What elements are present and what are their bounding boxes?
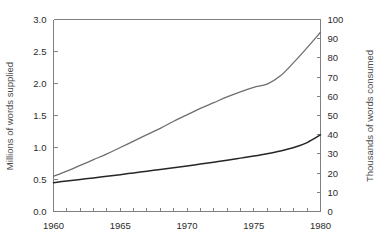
y-right-tick-label: 80 [328,52,339,63]
y-right-tick-label: 20 [328,168,339,179]
y-axis-right-tick-marks [317,20,321,212]
y-left-tick-label: 1.5 [33,110,46,121]
series-line-0 [54,32,321,176]
x-tick-label: 1975 [243,220,264,231]
y-left-tick-label: 1.0 [33,142,46,153]
y-axis-left-title: Millions of words supplied [4,62,15,170]
x-tick-label: 1960 [43,220,64,231]
y-axis-right-title: Thousands of words consumed [364,50,375,182]
y-left-tick-label: 2.5 [33,46,46,57]
y-right-tick-label: 70 [328,72,339,83]
y-axis-right-tick-labels: 0102030405060708090100 [328,14,344,217]
y-right-tick-label: 30 [328,148,339,159]
y-right-tick-label: 50 [328,110,339,121]
y-right-tick-label: 90 [328,33,339,44]
y-axis-left-tick-labels: 0.00.51.01.52.02.53.0 [33,14,46,217]
x-tick-label: 1980 [310,220,331,231]
y-left-tick-label: 2.0 [33,78,46,89]
y-left-tick-label: 0.0 [33,206,46,217]
x-tick-label: 1965 [110,220,131,231]
data-series-group [54,32,321,182]
y-right-tick-label: 40 [328,129,339,140]
y-right-tick-label: 100 [328,14,344,25]
chart-container: 19601965197019751980 0.00.51.01.52.02.53… [0,0,383,249]
x-axis-tick-labels: 19601965197019751980 [43,220,331,231]
line-chart: 19601965197019751980 0.00.51.01.52.02.53… [0,0,383,249]
y-left-tick-label: 3.0 [33,14,46,25]
y-right-tick-label: 10 [328,187,339,198]
x-axis-tick-marks [54,208,321,212]
y-right-tick-label: 0 [328,206,333,217]
y-left-tick-label: 0.5 [33,174,46,185]
series-line-1 [54,135,321,183]
x-tick-label: 1970 [176,220,197,231]
y-right-tick-label: 60 [328,91,339,102]
